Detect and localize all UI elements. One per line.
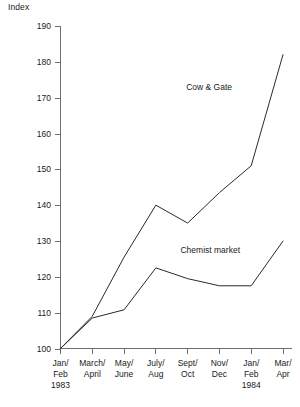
chart-canvas: 100110120130140150160170180190 Jan/Feb19… [0,0,300,407]
y-tick-label: 190 [37,21,51,31]
series-annotations: Cow & GateChemist market [180,82,240,255]
x-tick-label: March/ [79,358,106,368]
x-tick-label: Oct [181,369,195,379]
series-label-chemist-market: Chemist market [180,245,240,255]
y-tick-label: 110 [37,308,51,318]
x-tick-label: May/ [115,358,134,368]
line-chart: Index 100110120130140150160170180190 Jan… [0,0,300,407]
x-tick-label: Aug [148,369,163,379]
x-tick-label: Jan/ [243,358,260,368]
y-axis-ticks: 100110120130140150160170180190 [37,21,61,354]
x-tick-label: July/ [147,358,165,368]
x-tick-label: Nov/ [211,358,229,368]
y-tick-label: 170 [37,93,51,103]
x-tick-label: Dec [212,369,228,379]
data-line-cow-gate [61,55,284,349]
y-tick-label: 180 [37,57,51,67]
x-tick-label: Apr [276,369,289,379]
x-tick-label: Sept/ [178,358,198,368]
x-tick-label: Jan/ [52,358,69,368]
x-tick-label: Feb [53,369,68,379]
x-axis-ticks: Jan/Feb1983March/AprilMay/JuneJuly/AugSe… [51,349,292,391]
x-tick-label: June [115,369,134,379]
x-tick-label: 1983 [51,380,70,390]
x-tick-label: Feb [244,369,259,379]
x-tick-label: Mar/ [275,358,293,368]
series-label-cow-gate: Cow & Gate [186,82,232,92]
y-tick-label: 160 [37,129,51,139]
y-tick-label: 120 [37,272,51,282]
y-tick-label: 140 [37,200,51,210]
data-series-group [61,55,284,349]
y-tick-label: 130 [37,236,51,246]
y-tick-label: 150 [37,164,51,174]
y-tick-label: 100 [37,344,51,354]
x-tick-label: 1984 [242,380,261,390]
x-tick-label: April [84,369,101,379]
data-line-chemist-market [61,241,284,349]
